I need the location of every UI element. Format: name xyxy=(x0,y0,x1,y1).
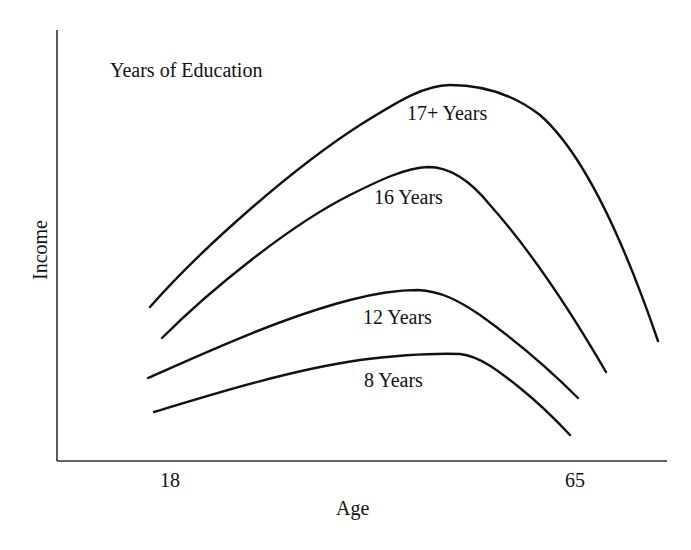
chart-plot-area xyxy=(0,0,691,550)
series-label-17-plus-years: 17+ Years xyxy=(407,103,487,123)
series-label-16-years: 16 Years xyxy=(374,187,443,207)
age-earnings-chart: Years of Education Income Age 18 65 17+ … xyxy=(0,0,691,550)
x-tick-65: 65 xyxy=(565,470,585,490)
x-axis-label: Age xyxy=(336,498,369,518)
curve-17-plus-years xyxy=(150,85,658,341)
curve-8-years xyxy=(154,354,570,435)
legend-title: Years of Education xyxy=(110,60,262,80)
y-axis-label: Income xyxy=(30,220,50,280)
series-label-8-years: 8 Years xyxy=(364,370,423,390)
series-label-12-years: 12 Years xyxy=(363,307,432,327)
x-tick-18: 18 xyxy=(160,470,180,490)
